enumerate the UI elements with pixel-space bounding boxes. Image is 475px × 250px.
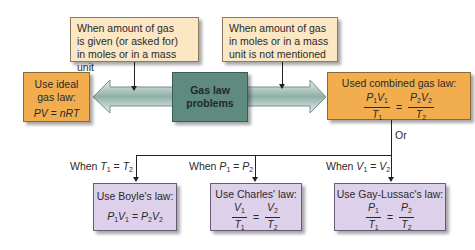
condition-label-volume: When V1 = V2	[326, 160, 390, 173]
arrowhead-icon	[279, 84, 285, 89]
combined-formula: P1V1T1 = P2V2T2	[328, 91, 470, 124]
text-line: When amount of gas	[229, 22, 331, 35]
branch-line	[136, 155, 392, 156]
text-line: in moles or in a mass	[229, 35, 331, 48]
condition-label-temperature: When T1 = T2	[70, 160, 133, 173]
branch-boyle	[136, 155, 137, 178]
arrowhead-icon	[388, 177, 394, 182]
arrowhead-icon	[252, 177, 258, 182]
arrowhead-icon	[131, 86, 137, 91]
text-line: Use ideal	[24, 78, 89, 91]
text-line: When amount of gas	[77, 22, 192, 35]
boyles-law-box: Use Boyle's law: P1V1 = P2V2	[93, 183, 177, 231]
box-title: Use Boyle's law:	[94, 190, 176, 203]
charles-formula: V1T1 = V2T2	[211, 201, 301, 234]
trunk-line	[391, 120, 392, 178]
condition-box-moles-not-mentioned: When amount of gas in moles or in a mass…	[222, 17, 338, 62]
text-line: Gas law	[186, 84, 233, 97]
box-title: Use Charles' law:	[211, 188, 301, 201]
ideal-gas-law-box: Use ideal gas law: PV = nRT	[23, 72, 90, 122]
text-line: gas law:	[24, 91, 89, 104]
branch-charles	[255, 155, 256, 178]
text-line: unit is not mentioned	[229, 48, 331, 61]
combined-gas-law-box: Used combined gas law: P1V1T1 = P2V2T2	[327, 72, 471, 120]
condition-label-pressure: When P1 = P2	[189, 160, 253, 173]
box-title: Use Gay-Lussac's law:	[335, 188, 445, 201]
box-title: Used combined gas law:	[328, 77, 470, 90]
or-label: Or	[395, 129, 407, 141]
text-line: is given (or asked for)	[77, 35, 192, 48]
text-line: problems	[186, 97, 233, 110]
gay-lussac-formula: P1T1 = P2T2	[335, 201, 445, 234]
boyles-formula: P1V1 = P2V2	[94, 210, 176, 226]
arrowhead-icon	[133, 177, 139, 182]
ideal-gas-formula: PV = nRT	[24, 107, 89, 120]
charles-law-box: Use Charles' law: V1T1 = V2T2	[210, 183, 302, 231]
condition-box-moles-given: When amount of gas is given (or asked fo…	[70, 17, 199, 62]
gas-law-problems-box: Gas law problems	[172, 72, 248, 122]
text-line: in moles or in a mass unit	[77, 48, 192, 74]
gay-lussacs-law-box: Use Gay-Lussac's law: P1T1 = P2T2	[334, 183, 446, 231]
